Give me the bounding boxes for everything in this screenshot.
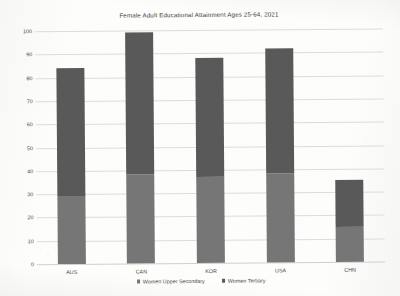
legend-item[interactable]: Women Upper Secondary bbox=[137, 278, 205, 285]
bar-segment[interactable] bbox=[57, 196, 86, 264]
bar-group[interactable] bbox=[195, 58, 225, 263]
x-axis-tick-label: KOR bbox=[181, 268, 241, 274]
bar-segment[interactable] bbox=[127, 175, 156, 264]
legend-item-label: Women Tertiary bbox=[228, 277, 266, 283]
legend-swatch-tertiary-icon bbox=[222, 279, 226, 283]
y-axis-tick-label: 90 bbox=[0, 51, 32, 57]
bar-series-area: AUSCANKORUSACHN bbox=[35, 29, 385, 265]
legend-swatch-upper-secondary-icon bbox=[137, 280, 141, 284]
y-axis-tick-label: 20 bbox=[1, 215, 34, 221]
y-axis-tick-label: 60 bbox=[0, 121, 33, 127]
y-axis-tick-label: 30 bbox=[0, 191, 33, 197]
bar-group[interactable] bbox=[265, 48, 295, 263]
bar-segment[interactable] bbox=[56, 68, 85, 196]
legend-item[interactable]: Women Tertiary bbox=[222, 277, 266, 283]
bar-segment[interactable] bbox=[265, 48, 294, 174]
bar-group[interactable] bbox=[335, 180, 364, 262]
bar-segment[interactable] bbox=[195, 58, 224, 177]
y-axis-tick-label: 10 bbox=[1, 238, 34, 244]
y-axis-tick-label: 50 bbox=[0, 145, 33, 151]
chart-title: Female Adult Educational Attainment Ages… bbox=[0, 9, 399, 19]
bar-segment[interactable] bbox=[125, 33, 154, 175]
legend-item-label: Women Upper Secondary bbox=[143, 278, 205, 284]
bar-segment[interactable] bbox=[336, 227, 364, 262]
bar-segment[interactable] bbox=[335, 180, 363, 227]
y-axis-tick-label: 70 bbox=[0, 98, 33, 104]
y-axis-tick-label: 100 bbox=[0, 28, 32, 34]
chart-legend: Women Upper SecondaryWomen Tertiary bbox=[1, 276, 400, 285]
bar-segment[interactable] bbox=[266, 174, 295, 263]
x-axis-tick-label: CHN bbox=[320, 267, 380, 273]
chart-figure: Female Adult Educational Attainment Ages… bbox=[0, 0, 400, 296]
y-axis-tick-label: 0 bbox=[1, 261, 34, 267]
bar-segment[interactable] bbox=[196, 177, 225, 263]
bar-group[interactable] bbox=[125, 33, 155, 264]
x-axis-tick-label: CAN bbox=[111, 268, 171, 274]
x-axis-tick-label: USA bbox=[251, 267, 311, 273]
bar-group[interactable] bbox=[56, 68, 86, 264]
y-axis-tick-label: 80 bbox=[0, 75, 32, 81]
y-axis-tick-labels: 0102030405060708090100 bbox=[0, 31, 34, 264]
y-axis-tick-label: 40 bbox=[0, 168, 33, 174]
x-axis-tick-label: AUS bbox=[42, 269, 102, 275]
